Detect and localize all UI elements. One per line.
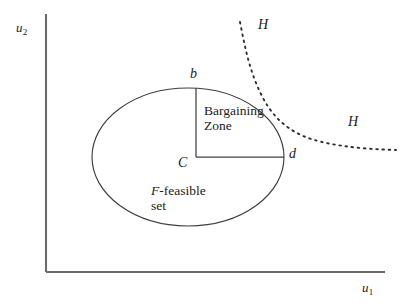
x-axis-label: u1	[362, 281, 373, 297]
y-axis-label-main: u	[16, 20, 23, 35]
y-axis-label-subscript: 2	[23, 27, 28, 37]
feasible-set-label-symbol: F	[151, 183, 159, 198]
bargaining-zone-label-line1: Bargaining	[204, 103, 264, 118]
hyperbola-label-lower: H	[348, 114, 358, 130]
bargaining-zone-figure: u2 u1 b C d H H BargainingZone F-feasibl…	[0, 0, 406, 304]
point-label-c: C	[178, 155, 187, 171]
feasible-set-label-rest: -feasible	[159, 183, 205, 198]
bargaining-zone-label: BargainingZone	[204, 103, 264, 133]
bargaining-zone-label-line2: Zone	[204, 118, 232, 133]
point-label-d: d	[289, 146, 296, 162]
figure-canvas	[0, 0, 406, 304]
point-label-b: b	[190, 66, 197, 82]
feasible-set-label: F-feasibleset	[151, 183, 206, 213]
x-axis-label-main: u	[362, 280, 369, 295]
y-axis-label: u2	[16, 21, 27, 37]
x-axis-label-subscript: 1	[369, 287, 374, 297]
feasible-set-label-line2: set	[151, 198, 166, 213]
hyperbola-label-upper: H	[258, 17, 268, 33]
